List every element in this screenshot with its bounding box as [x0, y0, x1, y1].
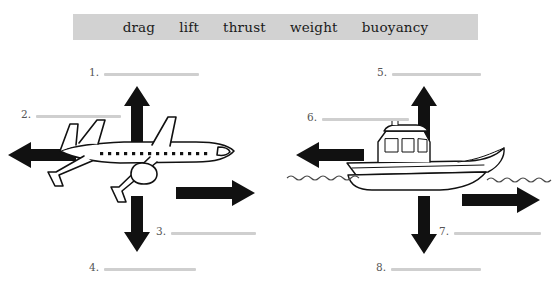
- answer-blank-7[interactable]: 7.: [439, 225, 541, 237]
- answer-blank-5-number: 5.: [377, 66, 387, 78]
- worksheet-page: drag lift thrust weight buoyancy: [0, 0, 556, 292]
- answer-blank-6-rule[interactable]: [322, 118, 409, 121]
- boat-arrow-down: [411, 196, 437, 254]
- answer-blank-2-number: 2.: [21, 108, 31, 120]
- answer-blank-8-rule[interactable]: [391, 268, 481, 271]
- boat-arrow-left: [296, 142, 364, 168]
- answer-blank-4[interactable]: 4.: [89, 261, 196, 273]
- word-bank: drag lift thrust weight buoyancy: [73, 14, 478, 40]
- answer-blank-1-number: 1.: [89, 66, 99, 78]
- answer-blank-1[interactable]: 1.: [89, 66, 199, 78]
- airplane-arrow-left: [8, 142, 76, 168]
- answer-blank-4-rule[interactable]: [104, 268, 196, 271]
- word-bank-item-thrust[interactable]: thrust: [223, 19, 266, 35]
- answer-blank-3-number: 3.: [156, 225, 166, 237]
- airplane-arrow-down: [124, 196, 150, 252]
- answer-blank-4-number: 4.: [89, 261, 99, 273]
- answer-blank-3[interactable]: 3.: [156, 225, 256, 237]
- airplane-illustration: [48, 117, 234, 202]
- answer-blank-2[interactable]: 2.: [21, 108, 121, 120]
- water-line: [287, 176, 551, 182]
- answer-blank-7-rule[interactable]: [454, 232, 541, 235]
- answer-blank-7-number: 7.: [439, 225, 449, 237]
- word-bank-item-buoyancy[interactable]: buoyancy: [362, 19, 429, 35]
- answer-blank-3-rule[interactable]: [171, 232, 256, 235]
- answer-blank-6-number: 6.: [307, 111, 317, 123]
- boat-illustration: [347, 120, 504, 190]
- answer-blank-1-rule[interactable]: [104, 73, 199, 76]
- boat-arrow-up: [411, 86, 437, 148]
- answer-blank-5[interactable]: 5.: [377, 66, 481, 78]
- airplane-arrow-up: [124, 86, 150, 145]
- word-bank-item-drag[interactable]: drag: [123, 19, 156, 35]
- answer-blank-5-rule[interactable]: [392, 73, 481, 76]
- airplane-arrow-right: [176, 180, 255, 206]
- word-bank-item-lift[interactable]: lift: [179, 19, 199, 35]
- answer-blank-8-number: 8.: [376, 261, 386, 273]
- word-bank-item-weight[interactable]: weight: [290, 19, 338, 35]
- answer-blank-2-rule[interactable]: [36, 115, 121, 118]
- answer-blank-6[interactable]: 6.: [307, 111, 409, 123]
- answer-blank-8[interactable]: 8.: [376, 261, 481, 273]
- boat-arrow-right: [462, 187, 540, 213]
- diagram-artwork: [0, 0, 556, 292]
- airplane-window-dots: [100, 152, 207, 155]
